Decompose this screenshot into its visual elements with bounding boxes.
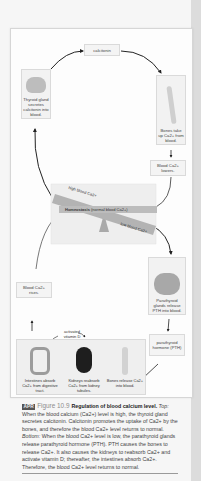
intestines-item: Intestines absorb Ca2+ from digestive tr… [20,347,60,393]
caption-bottom-label: Bottom: [22,433,40,439]
blood-rises-box: Blood Ca2+ rises. [16,282,52,298]
caption-top-label: Top: [159,403,169,409]
bones-release-item: Bones release Ca2+ into blood. [106,347,144,388]
bones-uptake-box: Bones take up Ca2+ from blood. [156,75,186,145]
figure-title: Regulation of blood calcium level. [71,403,157,409]
apr-badge: APR [22,404,35,410]
homeostasis-normal: (normal blood Ca2+) [90,207,128,212]
bones-release-text: Bones release Ca2+ into blood. [106,378,144,388]
calcitonin-text: calcitonin [93,48,110,53]
kidney-icon [76,347,92,373]
parathyroid-gland-icon [154,273,180,295]
blood-lowers-box: Blood Ca2+ lowers. [150,160,186,176]
caption-bottom-text: When the blood Ca2+ level is low, the pa… [22,433,175,469]
intestine-icon [30,347,50,375]
parathyroid-box: Parathyroid glands release PTH into bloo… [148,257,186,315]
bone-icon [122,347,128,375]
thyroid-text: Thyroid gland secretes calcitonin into b… [23,97,49,117]
parathyroid-text: Parathyroid glands release PTH into bloo… [150,298,184,313]
blood-lowers-text: Blood Ca2+ lowers. [152,163,184,173]
figure-panel: calcitonin Thyroid gland secretes calcit… [10,28,193,398]
thyroid-box: Thyroid gland secretes calcitonin into b… [21,69,51,119]
pth-box: parathyroid hormone (PTH) [149,334,185,356]
activated-vitamin-d-label: activated vitamin D [61,329,83,339]
homeostasis-bold: Homeostasis [65,207,90,212]
femur-bone-icon [166,86,176,124]
blood-rises-text: Blood Ca2+ rises. [18,285,50,295]
pth-text: parathyroid hormone (PTH) [151,340,183,350]
caption-top-text: When the blood calcium (Ca2+) level is h… [22,411,178,432]
figure-caption: APRFigure 10.9Regulation of blood calciu… [22,402,180,471]
calcitonin-label: calcitonin [84,44,120,56]
bones-uptake-text: Bones take up Ca2+ from blood. [158,128,184,143]
thyroid-gland-icon [26,77,46,93]
figure-number: Figure 10.9 [37,402,69,409]
caption-rule [22,473,178,474]
kidneys-text: Kidneys reabsorb Ca2+ from kidney tubule… [64,378,104,393]
intestines-text: Intestines absorb Ca2+ from digestive tr… [20,378,60,393]
homeostasis-label: Homeostasis (normal blood Ca2+) [65,207,128,212]
kidneys-item: Kidneys reabsorb Ca2+ from kidney tubule… [64,347,104,393]
